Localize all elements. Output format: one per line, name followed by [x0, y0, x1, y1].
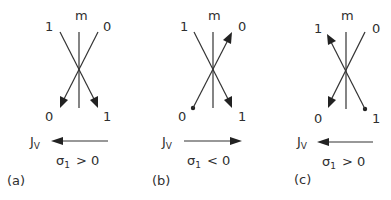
label-top-right: 0	[372, 21, 380, 36]
axis-label-m: m	[75, 8, 88, 23]
panel-caption: (a)	[7, 173, 25, 188]
axis-label-m: m	[341, 8, 354, 23]
arrow-left-icon	[317, 138, 329, 146]
panel-caption: (c)	[294, 172, 311, 187]
label-bottom-left: 0	[314, 111, 322, 126]
label-bottom-left: 0	[45, 109, 53, 124]
label-top-left: 1	[180, 19, 188, 34]
arrow-left-icon	[51, 137, 63, 145]
axis-label-m: m	[208, 8, 221, 23]
branch-line-1	[194, 32, 229, 101]
branch-line-0	[63, 32, 98, 101]
label-bottom-right: 1	[372, 111, 380, 126]
branch-line-0	[331, 32, 365, 100]
label-top-left: 1	[45, 19, 53, 34]
label-top-right: 0	[103, 19, 111, 34]
flux-label: JV	[296, 134, 308, 151]
flux-label: JV	[161, 134, 173, 151]
figure-canvas: m 1 0 0 1 JV σ1> 0 (a) m 1 0 0 1 JV	[0, 0, 391, 200]
label-bottom-right: 1	[238, 109, 246, 124]
branch-line-1	[60, 32, 95, 101]
condition-text: σ1> 0	[56, 153, 99, 170]
panel-b: m 1 0 0 1 JV σ1< 0 (b)	[152, 8, 246, 188]
branch-line-1	[331, 42, 365, 109]
label-top-left: 1	[314, 21, 322, 36]
label-bottom-right: 1	[103, 109, 111, 124]
arrowhead-up-right-icon	[223, 32, 232, 44]
condition-text: σ1< 0	[187, 153, 230, 170]
branch-line-0	[193, 40, 228, 108]
flux-label: JV	[29, 134, 41, 151]
arrow-right-icon	[230, 137, 242, 145]
panel-caption: (b)	[152, 173, 170, 188]
label-top-right: 0	[238, 19, 246, 34]
label-bottom-left: 0	[178, 109, 186, 124]
panel-a: m 1 0 0 1 JV σ1> 0 (a)	[7, 8, 111, 188]
panel-c: m 1 0 0 1 JV σ1> 0 (c)	[294, 8, 380, 187]
condition-text: σ1> 0	[322, 154, 365, 171]
